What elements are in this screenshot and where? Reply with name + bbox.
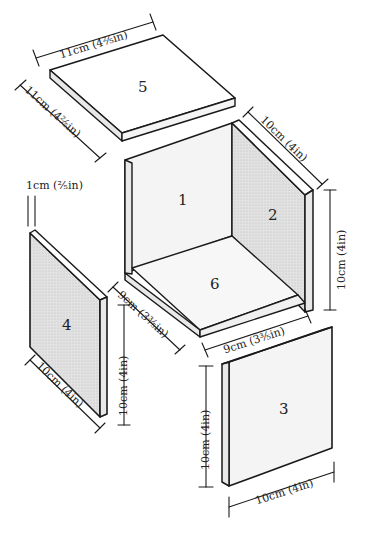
panel-2-label: 2	[268, 208, 278, 223]
panel-6-label: 6	[210, 277, 220, 292]
dim-panel3-height: 10cm (4in)	[200, 410, 211, 470]
panel-1-label: 1	[178, 193, 188, 208]
panel-3-label: 3	[279, 402, 289, 417]
panel-5-label: 5	[138, 80, 148, 95]
dim-panel4-height: 10cm (4in)	[118, 356, 129, 416]
box-exploded-diagram: 5 1 2 6 4 3 11cm (4²⁄₅in) 11cm (4²⁄₅in) …	[0, 0, 372, 537]
diagram-drawing	[0, 0, 372, 537]
dim-side-height: 10cm (4in)	[336, 230, 347, 290]
panel-4-label: 4	[62, 318, 72, 333]
dim-thickness: 1cm (²⁄₅in)	[26, 180, 83, 191]
